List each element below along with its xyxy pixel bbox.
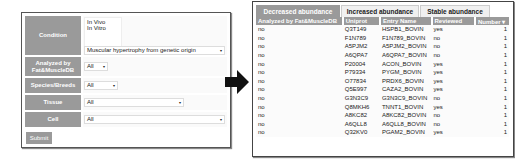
cell-reviewed: yes [432, 77, 475, 86]
table-row[interactable]: noQ3T149HSPB1_BOVINyes1 [256, 25, 509, 34]
cell-analyzed: no [256, 85, 343, 94]
table-row[interactable]: noQ8MKH6TNNT1_BOVINyes1 [256, 102, 509, 111]
cell-uniprot: P20004 [343, 59, 380, 68]
cell-uniprot: Q8MKH6 [343, 102, 380, 111]
chevron-down-icon: ▾ [220, 116, 222, 123]
cell-reviewed: no [432, 51, 475, 60]
search-form-panel: Condition In Vivo In Vitro Muscular hype… [21, 12, 231, 148]
cell-row: Cell All ▾ [25, 112, 227, 127]
tab-increased-abundance[interactable]: Increased abundance [341, 5, 419, 17]
table-row[interactable]: noP20004ACON_BOVINyes1 [256, 59, 509, 68]
cell-analyzed: no [256, 77, 343, 86]
condition-row: Condition In Vivo In Vitro Muscular hype… [25, 16, 227, 55]
cell-number: 1 [475, 94, 509, 103]
table-row[interactable]: noA6QPA7A6QPA7_BOVINno1 [256, 51, 509, 60]
cell-uniprot: A6QLL8 [343, 120, 380, 129]
table-row[interactable]: noA8KC82A8KC82_BOVINno1 [256, 111, 509, 120]
cell-number: 1 [475, 42, 509, 51]
cell-entry-name: ACON_BOVIN [380, 59, 432, 68]
tab-decreased-abundance[interactable]: Decreased abundance [256, 5, 340, 17]
tissue-select-value: All [87, 99, 94, 105]
cell-entry-name: A5PJM2_BOVIN [380, 42, 432, 51]
submit-button[interactable]: Submit [26, 132, 52, 144]
column-header-uniprot[interactable]: Uniprot [343, 17, 380, 25]
table-row[interactable]: noQ32KV0PGAM2_BOVINyes1 [256, 128, 509, 137]
cell-reviewed: no [432, 94, 475, 103]
column-header-analyzed[interactable]: Analyzed by Fat&MuscleDB [256, 17, 343, 25]
column-header-number[interactable]: Number ▾ [475, 17, 509, 25]
cell-number: 1 [475, 51, 509, 60]
condition-label: Condition [25, 16, 81, 55]
cell-number: 1 [475, 34, 509, 43]
cell-analyzed: no [256, 111, 343, 120]
cell-analyzed: no [256, 25, 343, 34]
cell-select[interactable]: All ▾ [84, 115, 225, 124]
cell-analyzed: no [256, 94, 343, 103]
condition-listbox[interactable]: In Vivo In Vitro [84, 17, 122, 47]
chevron-down-icon: ▾ [220, 47, 222, 54]
cell-number: 1 [475, 111, 509, 120]
cell-uniprot: P79334 [343, 68, 380, 77]
tissue-select[interactable]: All ▾ [84, 98, 184, 107]
results-table: Analyzed by Fat&MuscleDB Uniprot Entry N… [256, 17, 509, 137]
table-row[interactable]: noG3N3C9G3N3C9_BOVINno1 [256, 94, 509, 103]
condition-select[interactable]: Muscular hypertrophy from genetic origin… [84, 46, 225, 55]
cell-number: 1 [475, 68, 509, 77]
cell-analyzed: no [256, 128, 343, 137]
cell-entry-name: HSPB1_BOVIN [380, 25, 432, 34]
cell-analyzed: no [256, 102, 343, 111]
cell-analyzed: no [256, 34, 343, 43]
table-row[interactable]: noO77834PRDX6_BOVINyes1 [256, 77, 509, 86]
cell-entry-name: A8KC82_BOVIN [380, 111, 432, 120]
analyzed-select[interactable]: All ▾ [84, 62, 108, 71]
chevron-down-icon: ▾ [113, 82, 115, 89]
cell-analyzed: no [256, 120, 343, 129]
cell-uniprot: O77834 [343, 77, 380, 86]
cell-reviewed: yes [432, 85, 475, 94]
table-row[interactable]: noQ5E997CAZA2_BOVINyes1 [256, 85, 509, 94]
chevron-down-icon: ▾ [103, 63, 105, 70]
cell-uniprot: Q32KV0 [343, 128, 380, 137]
cell-label: Cell [25, 112, 81, 127]
cell-reviewed: yes [432, 68, 475, 77]
cell-entry-name: PYGM_BOVIN [380, 68, 432, 77]
cell-uniprot: F1N789 [343, 34, 380, 43]
cell-analyzed: no [256, 59, 343, 68]
cell-analyzed: no [256, 42, 343, 51]
species-select[interactable]: All ▾ [84, 81, 118, 90]
species-row: Species/Breeds All ▾ [25, 78, 227, 93]
cell-entry-name: F1N789_BOVIN [380, 34, 432, 43]
condition-select-value: Muscular hypertrophy from genetic origin [87, 47, 196, 53]
cell-entry-name: A6QPA7_BOVIN [380, 51, 432, 60]
cell-reviewed: yes [432, 59, 475, 68]
table-row[interactable]: noF1N789F1N789_BOVINno1 [256, 34, 509, 43]
cell-uniprot: A6QPA7 [343, 51, 380, 60]
table-row[interactable]: noP79334PYGM_BOVINyes1 [256, 68, 509, 77]
cell-analyzed: no [256, 68, 343, 77]
column-header-entry-name[interactable]: Entry Name [380, 17, 432, 25]
species-select-value: All [87, 82, 94, 88]
cell-entry-name: A6QLL8_BOVIN [380, 120, 432, 129]
tissue-row: Tissue All ▾ [25, 95, 227, 110]
species-label: Species/Breeds [25, 78, 81, 93]
cell-reviewed: no [432, 111, 475, 120]
column-header-reviewed[interactable]: Reviewed [432, 17, 475, 25]
cell-reviewed: yes [432, 102, 475, 111]
analyzed-select-value: All [87, 63, 94, 69]
cell-uniprot: Q5E997 [343, 85, 380, 94]
tab-stable-abundance[interactable]: Stable abundance [420, 5, 490, 17]
chevron-down-icon: ▾ [179, 99, 181, 106]
analyzed-row: Analyzed by Fat&MuscleDB All ▾ [25, 57, 227, 76]
cell-reviewed: no [432, 120, 475, 129]
cell-uniprot: Q3T149 [343, 25, 380, 34]
table-row[interactable]: noA5PJM2A5PJM2_BOVINno1 [256, 42, 509, 51]
results-panel: Decreased abundance Increased abundance … [252, 1, 514, 157]
cell-number: 1 [475, 77, 509, 86]
condition-option[interactable]: In Vitro [87, 25, 119, 31]
cell-select-value: All [87, 116, 94, 122]
cell-number: 1 [475, 25, 509, 34]
cell-number: 1 [475, 120, 509, 129]
tissue-label: Tissue [25, 95, 81, 110]
table-row[interactable]: noA6QLL8A6QLL8_BOVINno1 [256, 120, 509, 129]
cell-number: 1 [475, 128, 509, 137]
